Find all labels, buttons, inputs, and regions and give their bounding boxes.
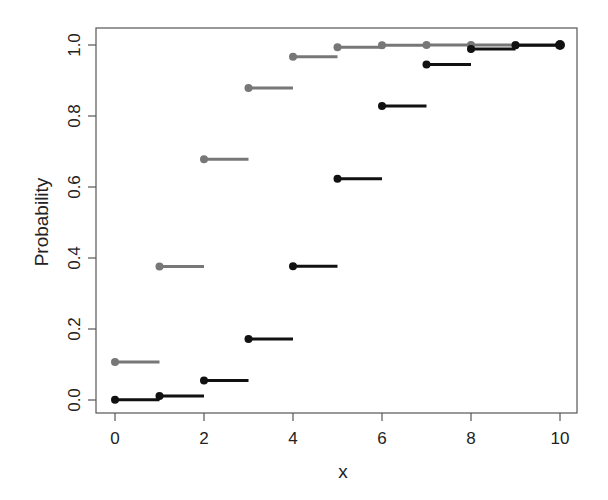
y-tick-label: 0.4 [65, 246, 84, 270]
x-tick-label: 0 [110, 429, 119, 448]
x-tick-label: 8 [466, 429, 475, 448]
series-layer [111, 40, 565, 404]
plot-frame [96, 28, 577, 413]
step-point [334, 43, 342, 51]
x-axis: 0246810 [110, 413, 569, 448]
step-point [423, 41, 431, 49]
x-tick-label: 2 [199, 429, 208, 448]
y-axis: 0.00.20.40.60.81.0 [65, 33, 96, 412]
series-p0.5 [111, 40, 565, 404]
step-point [378, 102, 386, 110]
step-point [334, 175, 342, 183]
y-tick-label: 1.0 [65, 33, 84, 57]
step-point [289, 262, 297, 270]
step-point [200, 155, 208, 163]
y-tick-label: 0.8 [65, 104, 84, 128]
x-axis-label: x [338, 461, 348, 482]
cdf-step-chart: 0246810 0.00.20.40.60.81.0 x Probability [0, 0, 608, 500]
step-point [156, 263, 164, 271]
step-point [378, 41, 386, 49]
x-tick-label: 4 [288, 429, 297, 448]
step-point [555, 40, 565, 50]
step-point [200, 376, 208, 384]
y-tick-label: 0.2 [65, 317, 84, 341]
step-point [467, 45, 475, 53]
step-point [423, 61, 431, 69]
step-point [245, 84, 253, 92]
step-point [111, 396, 119, 404]
step-point [156, 392, 164, 400]
x-tick-label: 10 [551, 429, 570, 448]
step-point [111, 358, 119, 366]
y-axis-label: Probability [31, 177, 52, 266]
step-point [245, 335, 253, 343]
series-p0.2 [111, 41, 564, 366]
step-point [289, 53, 297, 61]
y-tick-label: 0.0 [65, 388, 84, 412]
step-point [512, 41, 520, 49]
y-tick-label: 0.6 [65, 175, 84, 199]
x-tick-label: 6 [377, 429, 386, 448]
